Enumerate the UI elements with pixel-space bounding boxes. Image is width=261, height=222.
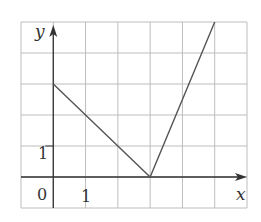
origin-label: 0	[37, 185, 47, 204]
graph-line	[53, 22, 214, 177]
coordinate-plot: y x 0 1 1	[0, 0, 261, 222]
grid	[21, 22, 247, 208]
x-tick-label: 1	[81, 187, 91, 206]
x-axis-label: x	[236, 184, 246, 204]
y-axis-label: y	[34, 21, 45, 41]
axes	[21, 25, 247, 208]
y-tick-label: 1	[38, 144, 48, 163]
